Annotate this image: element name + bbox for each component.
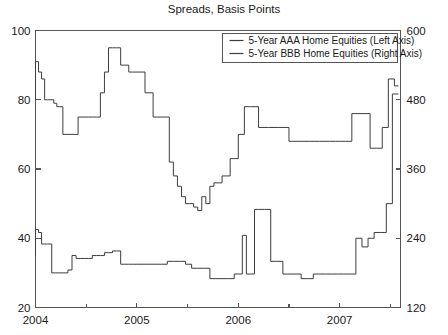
x-tick-label: 2004: [23, 314, 49, 326]
x-tick-label: 2006: [225, 314, 251, 326]
legend-label-2: 5-Year BBB Home Equities (Right Axis): [249, 48, 423, 59]
y-right-tick-label: 480: [407, 94, 426, 106]
x-tick-label: 2005: [124, 314, 150, 326]
y-left-tick-label: 40: [18, 232, 31, 244]
y-right-tick-label: 240: [407, 232, 426, 244]
spreads-line-chart: Spreads, Basis Points 2004200520062007 2…: [0, 0, 448, 335]
y-left-tick-label: 20: [18, 302, 31, 314]
x-tick-label: 2007: [327, 314, 353, 326]
y-right-tick-label: 120: [407, 302, 426, 314]
y-left-tick-label: 100: [11, 25, 30, 37]
legend-label-1: 5-Year AAA Home Equities (Left Axis): [249, 35, 415, 46]
y-right-tick-label: 360: [407, 163, 426, 175]
y-left-tick-label: 80: [18, 94, 31, 106]
chart-legend: 5-Year AAA Home Equities (Left Axis)5-Ye…: [223, 34, 423, 63]
chart-figure: Spreads, Basis Points 2004200520062007 2…: [0, 0, 448, 335]
chart-title: Spreads, Basis Points: [168, 3, 281, 15]
y-left-tick-label: 60: [18, 163, 31, 175]
